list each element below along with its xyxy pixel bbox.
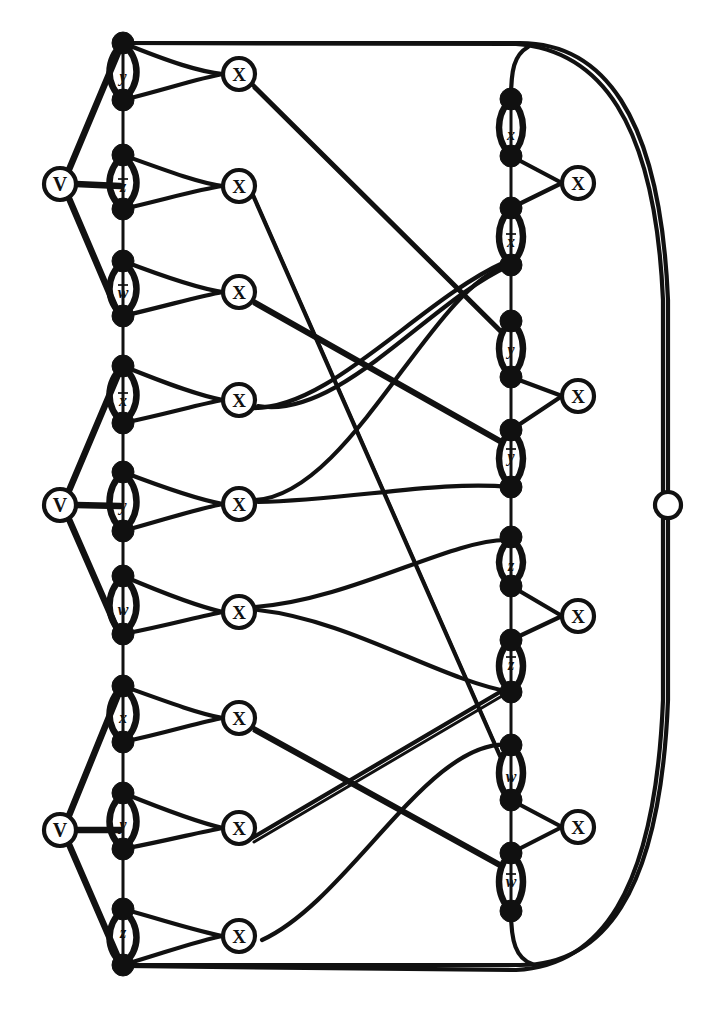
edge-label: z bbox=[119, 924, 127, 941]
right-node bbox=[500, 476, 522, 498]
edge-label: z bbox=[507, 557, 515, 574]
left-node bbox=[112, 623, 134, 645]
right-clause-vertices: X X X X bbox=[562, 167, 594, 843]
left-node bbox=[112, 32, 134, 54]
clause-vertex-label: X bbox=[232, 282, 246, 303]
edge-label-text: x bbox=[506, 233, 515, 250]
top-outer-wire-branch bbox=[123, 43, 663, 492]
left-node bbox=[112, 838, 134, 860]
clause-vertex[interactable]: X bbox=[223, 812, 255, 844]
edge-label: z bbox=[118, 178, 128, 195]
clause-vertex-label: X bbox=[232, 494, 246, 515]
left-node bbox=[112, 89, 134, 111]
left-node bbox=[112, 355, 134, 377]
edge-label-text: w bbox=[506, 873, 517, 890]
or-vertex-label: V bbox=[53, 819, 68, 841]
clause-vertex[interactable]: X bbox=[562, 167, 594, 199]
clause-vertex[interactable]: X bbox=[562, 600, 594, 632]
edge-label-text: z bbox=[507, 557, 515, 574]
edge-label: y bbox=[117, 816, 127, 834]
right-node bbox=[500, 789, 522, 811]
cross-edge-1b bbox=[254, 88, 502, 334]
or-vertex[interactable]: V bbox=[44, 168, 76, 200]
clause-vertex-label: X bbox=[571, 817, 585, 838]
open-vertex-circle[interactable] bbox=[655, 492, 681, 518]
clause-vertex[interactable]: X bbox=[223, 488, 255, 520]
edge-label: w bbox=[506, 768, 517, 785]
edge-label-text: w bbox=[506, 768, 517, 785]
or-vertex-label: V bbox=[53, 494, 68, 516]
or-vertex-label: V bbox=[53, 173, 68, 195]
cross-edge-8 bbox=[252, 692, 500, 838]
clause-vertex[interactable]: X bbox=[223, 276, 255, 308]
left-node bbox=[112, 198, 134, 220]
v1-spoke-down bbox=[68, 196, 120, 318]
right-node bbox=[500, 734, 522, 756]
edge-label: x bbox=[506, 126, 515, 143]
clause-vertex[interactable]: X bbox=[562, 811, 594, 843]
edge-label-text: y bbox=[117, 497, 127, 515]
edge-label-text: y bbox=[505, 448, 515, 466]
right-node bbox=[500, 254, 522, 276]
edge-label-text: y bbox=[117, 68, 127, 86]
cross-edge-7 bbox=[252, 727, 500, 864]
clause-vertex-label: X bbox=[232, 926, 246, 947]
edge-label-text: x bbox=[118, 392, 127, 409]
left-node bbox=[112, 412, 134, 434]
cross-edge-6 bbox=[255, 540, 506, 607]
clause-vertex[interactable]: X bbox=[223, 702, 255, 734]
cross-edge-4b bbox=[258, 265, 511, 407]
edge-label: x bbox=[118, 709, 127, 726]
edge-label-text: y bbox=[505, 341, 515, 359]
edge-label-text: z bbox=[507, 656, 515, 673]
edge-label: y bbox=[117, 497, 127, 515]
graph-diagram-svg: V V V X X X X X bbox=[0, 0, 718, 1016]
clause-vertex-label: X bbox=[571, 386, 585, 407]
clause-vertex-label: X bbox=[571, 173, 585, 194]
left-node bbox=[112, 565, 134, 587]
left-node bbox=[112, 898, 134, 920]
clause-vertex[interactable]: X bbox=[562, 380, 594, 412]
left-node bbox=[112, 250, 134, 272]
right-node bbox=[500, 842, 522, 864]
cross-edge-2b bbox=[254, 197, 502, 760]
left-node bbox=[112, 305, 134, 327]
or-vertex[interactable]: V bbox=[44, 489, 76, 521]
right-node bbox=[500, 526, 522, 548]
v1-spoke-right bbox=[76, 184, 120, 186]
right-node bbox=[500, 900, 522, 922]
diagram-canvas: V V V X X X X X bbox=[0, 0, 718, 1016]
edge-label: y bbox=[117, 68, 127, 86]
clause-vertex[interactable]: X bbox=[223, 596, 255, 628]
right-node bbox=[500, 681, 522, 703]
left-node bbox=[112, 782, 134, 804]
clause-vertex[interactable]: X bbox=[223, 170, 255, 202]
edge-label-text: y bbox=[117, 816, 127, 834]
left-node bbox=[112, 520, 134, 542]
clause-vertex[interactable]: X bbox=[223, 384, 255, 416]
right-node bbox=[500, 145, 522, 167]
open-vertex[interactable] bbox=[655, 492, 681, 518]
cross-edge-9 bbox=[262, 745, 511, 940]
v3-spoke-up bbox=[68, 690, 120, 818]
edge-label: w bbox=[118, 284, 129, 301]
clause-vertex[interactable]: X bbox=[223, 58, 255, 90]
edge-label-text: x bbox=[506, 126, 515, 143]
or-vertex[interactable]: V bbox=[44, 814, 76, 846]
right-node bbox=[500, 419, 522, 441]
clause-vertex[interactable]: X bbox=[223, 920, 255, 952]
edge-label-text: z bbox=[119, 924, 127, 941]
right-node bbox=[500, 629, 522, 651]
cross-edge-7b bbox=[254, 731, 502, 868]
clause-vertex-label: X bbox=[232, 708, 246, 729]
clause-vertex-label: X bbox=[232, 64, 246, 85]
edge-label-text: z bbox=[119, 178, 127, 195]
edge-label: y bbox=[505, 448, 516, 466]
edge-label: w bbox=[506, 873, 517, 890]
clause-vertex-label: X bbox=[232, 818, 246, 839]
right-node bbox=[500, 575, 522, 597]
right-node bbox=[500, 310, 522, 332]
left-node bbox=[112, 731, 134, 753]
clause-vertex-label: X bbox=[571, 606, 585, 627]
or-vertices: V V V bbox=[44, 168, 76, 846]
